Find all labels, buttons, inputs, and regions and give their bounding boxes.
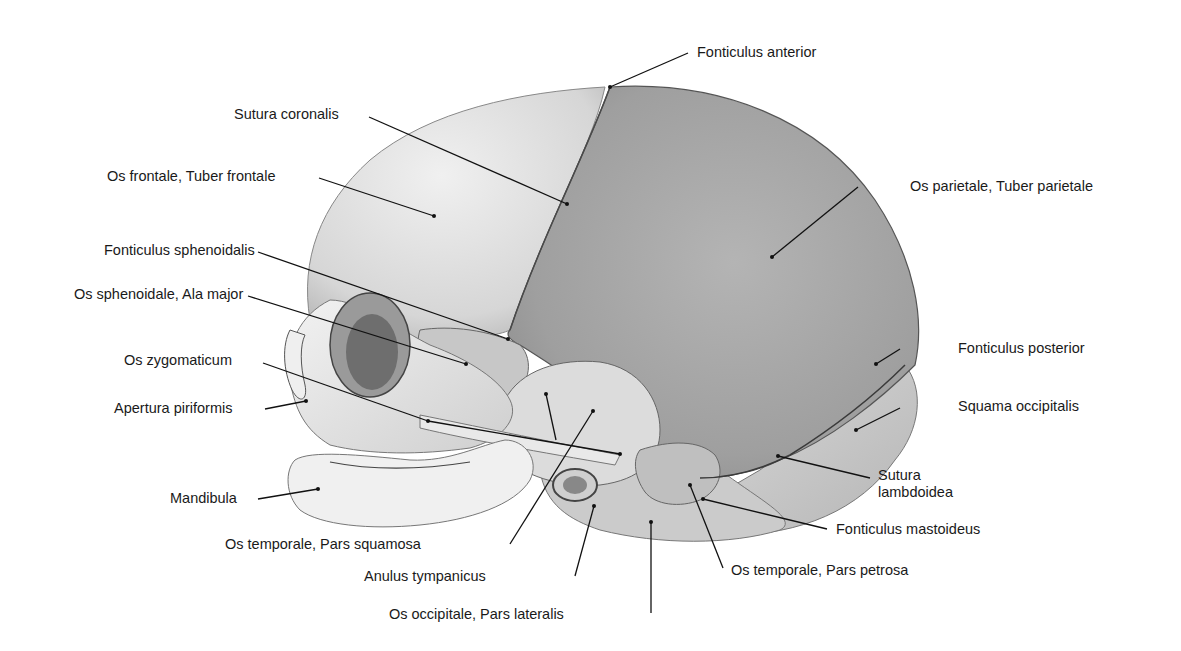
mandibula-pointer-dot xyxy=(316,487,320,491)
fonticulus-sphenoidalis-pointer-dot xyxy=(506,337,510,341)
label-os-parietale: Os parietale, Tuber parietale xyxy=(910,178,1093,195)
skull-illustration xyxy=(0,0,1181,651)
sutura-coronalis-pointer-dot xyxy=(565,202,569,206)
os-temporale-petrosa-shape xyxy=(635,443,720,504)
fonticulus-posterior-pointer-dot xyxy=(874,362,878,366)
label-os-occipitale-pars-lateralis: Os occipitale, Pars lateralis xyxy=(389,606,564,623)
label-apertura-piriformis: Apertura piriformis xyxy=(114,400,232,417)
os-temporale-pars-petrosa-pointer-dot xyxy=(688,483,692,487)
os-temporale-pars-squamosa-pointer-dot xyxy=(544,392,548,396)
sutura-lambdoidea-pointer-dot xyxy=(776,454,780,458)
label-fonticulus-mastoideus: Fonticulus mastoideus xyxy=(836,521,980,538)
label-os-temporale-pars-squamosa: Os temporale, Pars squamosa xyxy=(225,536,421,553)
label-os-zygomaticum: Os zygomaticum xyxy=(124,352,232,369)
fonticulus-anterior-leader-line xyxy=(610,53,688,87)
label-os-temporale-pars-petrosa: Os temporale, Pars petrosa xyxy=(731,562,908,579)
anulus-tympanicus-pointer-dot xyxy=(592,504,596,508)
os-parietale-pointer-dot xyxy=(770,255,774,259)
label-sutura-lambdoidea-line1: Sutura xyxy=(878,467,921,483)
label-squama-occipitalis: Squama occipitalis xyxy=(958,398,1079,415)
os-sphenoidale-pointer-dot xyxy=(464,362,468,366)
figure-stage xyxy=(0,0,1181,651)
fonticulus-mastoideus-pointer-dot xyxy=(701,497,705,501)
label-fonticulus-anterior: Fonticulus anterior xyxy=(697,44,816,61)
label-mandibula: Mandibula xyxy=(170,490,237,507)
label-os-frontale: Os frontale, Tuber frontale xyxy=(107,168,275,185)
label-sutura-lambdoidea: Sutura lambdoidea xyxy=(878,467,968,501)
fonticulus-anterior-pointer-dot xyxy=(608,85,612,89)
label-anulus-tympanicus: Anulus tympanicus xyxy=(364,568,486,585)
label-os-sphenoidale: Os sphenoidale, Ala major xyxy=(74,286,243,303)
os-zygomaticum-pointer-dot xyxy=(618,452,622,456)
label-fonticulus-sphenoidalis: Fonticulus sphenoidalis xyxy=(104,242,255,259)
os-occipitale-pars-lateralis-pointer-dot xyxy=(649,520,653,524)
apertura-piriformis-pointer-dot xyxy=(304,399,308,403)
label-sutura-lambdoidea-line2: lambdoidea xyxy=(878,484,953,500)
squama-occipitalis-pointer-dot xyxy=(854,428,858,432)
os-frontale-pointer-dot xyxy=(432,214,436,218)
os-temporale-pars-squamosa-pointer-dot xyxy=(591,409,595,413)
label-sutura-coronalis: Sutura coronalis xyxy=(234,106,339,123)
label-fonticulus-posterior: Fonticulus posterior xyxy=(958,340,1085,357)
